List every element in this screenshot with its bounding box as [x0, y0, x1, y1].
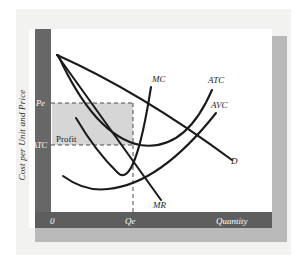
mr-curve-label: MR: [153, 200, 166, 210]
demand-curve-label: D: [231, 156, 238, 166]
quantity-tick-label: Qe: [125, 216, 136, 226]
atc-curve-label: ATC: [208, 75, 224, 85]
atc-tick-label: ATC: [32, 140, 47, 150]
avc-curve-label: AVC: [211, 100, 228, 110]
plot-svg: [0, 0, 306, 267]
profit-region-label: Profit: [56, 134, 77, 144]
price-tick-label: Pe: [36, 98, 45, 108]
mc-label: MC: [152, 74, 166, 84]
monopoly-profit-figure: Cost per Unit and Price MC ATC AVC D MR …: [0, 0, 306, 267]
x-axis-label: Quantity: [216, 216, 248, 226]
origin-label: 0: [50, 216, 55, 226]
